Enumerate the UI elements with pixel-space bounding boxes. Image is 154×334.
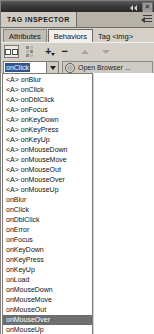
list-item[interactable]: <A> onKeyDown bbox=[3, 115, 92, 125]
list-item[interactable]: onMouseDown bbox=[3, 285, 92, 295]
list-item[interactable]: onDblClick bbox=[3, 215, 92, 225]
tab-strip: Attributes Behaviors Tag <img> bbox=[1, 28, 154, 42]
panel-title-tab[interactable]: TAG INSPECTOR bbox=[1, 12, 77, 27]
panel-title-label: TAG INSPECTOR bbox=[7, 16, 70, 23]
list-item[interactable]: <A> onMouseMove bbox=[3, 155, 92, 165]
list-item[interactable]: onFocus bbox=[3, 235, 92, 245]
gear-icon bbox=[65, 63, 75, 73]
minus-icon: − bbox=[61, 45, 67, 57]
list-item[interactable]: <A> onBlur bbox=[3, 75, 92, 85]
two-column-list-icon bbox=[5, 49, 18, 55]
add-behavior-button[interactable]: + bbox=[45, 47, 51, 56]
list-item[interactable]: onKeyUp bbox=[3, 265, 92, 275]
behavior-action-label: Open Browser ... bbox=[78, 64, 131, 71]
tag-inspector-panel: ✕ TAG INSPECTOR Attributes Behaviors Tag… bbox=[0, 0, 154, 334]
list-item[interactable]: <A> onMouseDown bbox=[3, 145, 92, 155]
list-item[interactable]: <A> onKeyPress bbox=[3, 125, 92, 135]
move-event-up-button[interactable] bbox=[81, 50, 89, 54]
list-item[interactable]: <A> onMouseUp bbox=[3, 185, 92, 195]
list-item[interactable]: <A> onClick bbox=[3, 85, 92, 95]
list-item[interactable]: <A> onFocus bbox=[3, 105, 92, 115]
show-set-events-button[interactable] bbox=[4, 45, 19, 58]
tab-attributes-label: Attributes bbox=[9, 32, 41, 41]
tab-behaviors-label: Behaviors bbox=[54, 32, 87, 41]
list-item[interactable]: onLoad bbox=[3, 275, 92, 285]
move-event-down-button[interactable] bbox=[102, 50, 110, 54]
tab-attributes[interactable]: Attributes bbox=[3, 29, 47, 42]
list-item[interactable]: onKeyDown bbox=[3, 245, 92, 255]
tab-behaviors[interactable]: Behaviors bbox=[48, 29, 93, 42]
list-item[interactable]: onClick bbox=[3, 205, 92, 215]
chevron-down-icon bbox=[51, 53, 55, 56]
remove-behavior-button[interactable]: − bbox=[61, 47, 67, 56]
list-item[interactable]: <A> onDblClick bbox=[3, 95, 92, 105]
list-item[interactable]: onMouseMove bbox=[3, 295, 92, 305]
panel-options-menu-icon[interactable] bbox=[141, 15, 152, 24]
event-combobox-value: onClick bbox=[5, 63, 30, 72]
list-item[interactable]: onError bbox=[3, 225, 92, 235]
behaviors-toolbar: + − bbox=[1, 42, 154, 60]
list-item[interactable]: onMouseOver bbox=[3, 315, 92, 325]
tab-tag-img[interactable]: Tag <img> bbox=[94, 30, 138, 42]
list-item[interactable]: <A> onMouseOver bbox=[3, 175, 92, 185]
show-all-events-button[interactable] bbox=[22, 45, 37, 58]
list-item[interactable]: onKeyPress bbox=[3, 255, 92, 265]
panel-header: TAG INSPECTOR bbox=[1, 12, 154, 28]
tab-tag-img-label: Tag <img> bbox=[98, 32, 133, 41]
event-dropdown-list[interactable]: <A> onBlur<A> onClick<A> onDblClick<A> o… bbox=[2, 73, 93, 334]
list-item[interactable]: onMouseOut bbox=[3, 305, 92, 315]
list-item[interactable]: onBlur bbox=[3, 195, 92, 205]
list-item[interactable]: <A> onKeyUp bbox=[3, 135, 92, 145]
list-item[interactable]: onMouseUp bbox=[3, 325, 92, 334]
list-item[interactable]: <A> onMouseOut bbox=[3, 165, 92, 175]
tree-list-icon bbox=[26, 46, 33, 57]
chevron-down-icon[interactable] bbox=[46, 62, 58, 73]
collapse-arrows-icon[interactable] bbox=[130, 4, 139, 12]
